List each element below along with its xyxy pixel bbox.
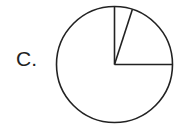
pie-slices: [57, 7, 173, 123]
slice-boundary: [115, 9, 133, 64]
pie-chart: [0, 0, 183, 127]
